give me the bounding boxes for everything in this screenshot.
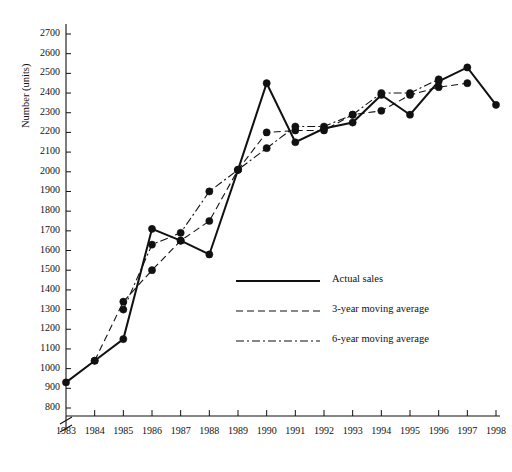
data-point-marker bbox=[148, 267, 155, 274]
y-tick-label: 1900 bbox=[20, 184, 60, 195]
data-point-marker bbox=[378, 107, 385, 114]
data-point-marker bbox=[177, 237, 184, 244]
data-point-marker bbox=[406, 111, 413, 118]
data-point-marker bbox=[292, 123, 299, 130]
data-point-marker bbox=[263, 80, 270, 87]
data-point-marker bbox=[62, 379, 69, 386]
x-tick-label: 1998 bbox=[478, 425, 512, 436]
y-tick-label: 1100 bbox=[20, 342, 60, 353]
y-tick-label: 800 bbox=[20, 401, 60, 412]
y-tick-label: 1200 bbox=[20, 322, 60, 333]
y-tick-label: 2600 bbox=[20, 47, 60, 58]
series-line-1 bbox=[95, 83, 468, 361]
data-point-marker bbox=[464, 80, 471, 87]
legend-sample-lines bbox=[236, 281, 320, 341]
y-tick-label: 2200 bbox=[20, 125, 60, 136]
data-point-marker bbox=[464, 64, 471, 71]
data-point-marker bbox=[120, 306, 127, 313]
data-point-marker bbox=[492, 101, 499, 108]
y-tick-label: 2100 bbox=[20, 145, 60, 156]
data-point-marker bbox=[234, 166, 241, 173]
data-point-marker bbox=[148, 241, 155, 248]
data-point-marker bbox=[148, 225, 155, 232]
y-tick-label: 2500 bbox=[20, 66, 60, 77]
y-tick-label: 1800 bbox=[20, 204, 60, 215]
data-point-marker bbox=[435, 76, 442, 83]
y-tick-label: 1000 bbox=[20, 362, 60, 373]
data-point-marker bbox=[349, 119, 356, 126]
y-tick-label: 2000 bbox=[20, 165, 60, 176]
y-tick-label: 1600 bbox=[20, 244, 60, 255]
data-point-marker bbox=[435, 84, 442, 91]
sales-line-chart: Number (units) 8009001000110012001300140… bbox=[0, 0, 512, 472]
data-point-marker bbox=[263, 129, 270, 136]
y-tick-label: 1300 bbox=[20, 303, 60, 314]
data-point-marker bbox=[206, 188, 213, 195]
y-tick-label: 1700 bbox=[20, 224, 60, 235]
data-point-marker bbox=[292, 139, 299, 146]
legend-label: Actual sales bbox=[332, 273, 383, 284]
data-point-marker bbox=[349, 111, 356, 118]
series-line-0 bbox=[66, 67, 496, 382]
data-point-marker bbox=[91, 357, 98, 364]
data-point-marker bbox=[406, 89, 413, 96]
y-tick-label: 900 bbox=[20, 381, 60, 392]
data-point-marker bbox=[120, 336, 127, 343]
y-tick-label: 2300 bbox=[20, 106, 60, 117]
data-point-marker bbox=[206, 217, 213, 224]
y-tick-label: 2700 bbox=[20, 27, 60, 38]
y-tick-label: 1400 bbox=[20, 283, 60, 294]
y-tick-label: 2400 bbox=[20, 86, 60, 97]
legend-label: 3-year moving average bbox=[332, 303, 429, 314]
data-point-marker bbox=[320, 123, 327, 130]
legend-label: 6-year moving average bbox=[332, 333, 429, 344]
data-point-marker bbox=[263, 145, 270, 152]
y-tick-label: 1500 bbox=[20, 263, 60, 274]
axis-ticks bbox=[66, 34, 496, 416]
data-point-marker bbox=[177, 229, 184, 236]
data-point-marker bbox=[378, 89, 385, 96]
data-point-marker bbox=[206, 251, 213, 258]
plot-area bbox=[0, 0, 512, 472]
data-series bbox=[62, 64, 499, 386]
